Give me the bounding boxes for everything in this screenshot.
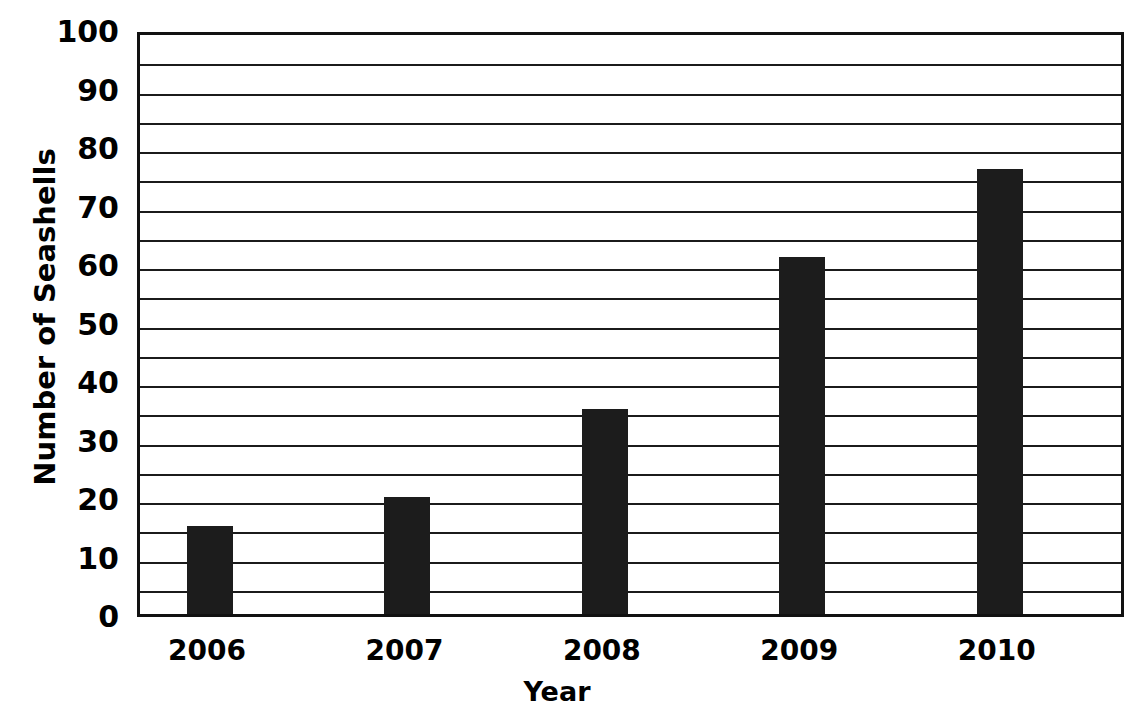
y-tick-label: 70: [77, 193, 119, 223]
x-tick-label: 2009: [760, 634, 838, 667]
x-tick-label: 2007: [366, 634, 444, 667]
plot-area: [137, 32, 1124, 617]
bar-series: [140, 35, 1121, 614]
bar: [977, 169, 1023, 614]
x-tick-label: 2006: [168, 634, 246, 667]
y-tick-label: 20: [77, 485, 119, 515]
x-tick-label: 2008: [563, 634, 641, 667]
y-tick-label: 30: [77, 427, 119, 457]
y-tick-label: 10: [77, 544, 119, 574]
bar: [187, 526, 233, 614]
bar-chart: Number of Seashells 01020304050607080901…: [0, 0, 1133, 720]
y-tick-label: 80: [77, 134, 119, 164]
bar: [779, 257, 825, 614]
y-tick-label: 50: [77, 310, 119, 340]
y-tick-label: 100: [56, 17, 119, 47]
bar: [384, 497, 430, 614]
x-axis-title: Year: [137, 676, 977, 707]
y-tick-label: 0: [98, 602, 119, 632]
x-tick-label: 2010: [958, 634, 1036, 667]
y-axis-tick-labels: 0102030405060708090100: [0, 0, 137, 720]
bar: [582, 409, 628, 614]
y-tick-label: 90: [77, 76, 119, 106]
y-tick-label: 60: [77, 251, 119, 281]
x-axis-tick-labels: 20062007200820092010: [137, 634, 1124, 674]
y-tick-label: 40: [77, 368, 119, 398]
